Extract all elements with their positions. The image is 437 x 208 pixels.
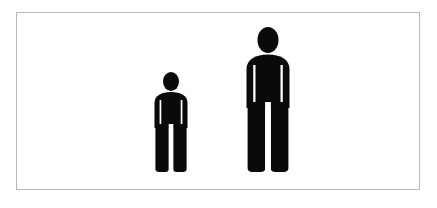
illustration-canvas (0, 0, 437, 208)
person-pictogram-small-icon (148, 72, 194, 172)
person-pictogram-large-icon (238, 27, 298, 172)
figure-layer (0, 0, 437, 208)
